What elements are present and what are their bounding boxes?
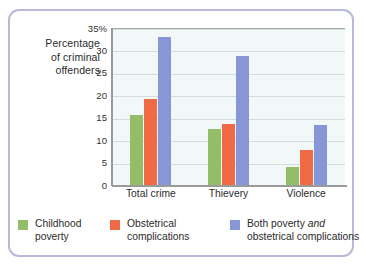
- y-axis-line: [111, 28, 113, 186]
- y-axis-tick-labels: 05101520253035%: [71, 28, 107, 186]
- bar[interactable]: [286, 167, 299, 185]
- x-axis-label-thievery: Thievery: [190, 188, 268, 199]
- y-tick-label-5: 5: [73, 158, 107, 167]
- chart-figure: Percentage of criminal offenders 0510152…: [0, 0, 366, 272]
- bar[interactable]: [130, 115, 143, 185]
- y-tick-label-20: 20: [73, 91, 107, 100]
- x-axis-label-violence: Violence: [267, 188, 345, 199]
- bar[interactable]: [300, 150, 313, 185]
- legend-label: Both poverty andobstetrical complication…: [247, 217, 359, 243]
- x-axis-label-total-crime: Total crime: [112, 188, 190, 199]
- y-tick-label-35: 35%: [73, 24, 107, 33]
- bar[interactable]: [222, 124, 235, 185]
- legend-swatch-icon: [18, 220, 28, 230]
- legend-swatch-icon: [110, 220, 120, 230]
- plot-area: [112, 28, 345, 185]
- bar[interactable]: [158, 37, 171, 185]
- legend-label: Childhoodpoverty: [35, 217, 81, 243]
- bar[interactable]: [144, 99, 157, 185]
- y-tick-label-30: 30: [73, 46, 107, 55]
- legend-swatch-icon: [230, 220, 240, 230]
- legend-label: Obstetricalcomplications: [127, 217, 189, 243]
- bar-group-total-crime: [130, 29, 171, 185]
- y-tick-label-15: 15: [73, 113, 107, 122]
- bar-group-thievery: [208, 29, 249, 185]
- bar-series-container: [112, 29, 345, 185]
- bar[interactable]: [236, 56, 249, 185]
- y-tick-label-25: 25: [73, 68, 107, 77]
- bar[interactable]: [208, 129, 221, 185]
- y-tick-label-0: 0: [73, 181, 107, 190]
- y-tick-label-10: 10: [73, 136, 107, 145]
- x-axis-line: [112, 185, 347, 187]
- x-axis-category-labels: Total crimeThieveryViolence: [112, 188, 345, 204]
- bar-group-violence: [286, 29, 327, 185]
- chart-legend: ChildhoodpovertyObstetricalcomplications…: [18, 218, 350, 250]
- bar[interactable]: [314, 125, 327, 185]
